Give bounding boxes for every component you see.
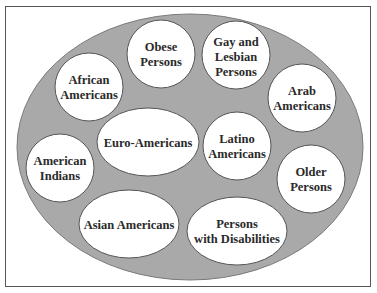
group-african-americans: African Americans [55,53,123,121]
group-euro-americans: Euro-Americans [97,108,199,176]
diversity-diagram: Obese Persons Gay and Lesbian Persons Af… [0,0,377,293]
group-label-line: Indians [40,169,80,183]
group-label-line: Americans [208,147,266,161]
group-american-indians: American Indians [26,134,94,202]
group-older-persons: Older Persons [277,145,345,213]
group-persons-with-disabilities: Persons with Disabilities [187,197,287,265]
group-label-line: Asian Americans [84,218,175,232]
group-label-line: Obese [145,40,178,54]
group-latino-americans: Latino Americans [203,112,271,180]
group-asian-americans: Asian Americans [79,190,179,258]
group-label-line: American [34,154,87,168]
group-label-line: Euro-Americans [104,136,193,150]
group-label-line: Persons [216,217,258,231]
group-label-line: Older [295,165,327,179]
group-label-line: with Disabilities [194,232,280,246]
group-arab-americans: Arab Americans [268,64,336,132]
group-label-line: Persons [215,65,257,79]
group-label-line: Latino [219,132,254,146]
group-label-line: Lesbian [215,50,257,64]
group-label-line: Arab [288,84,316,98]
group-label-line: Persons [290,180,332,194]
group-label-line: Americans [60,88,118,102]
group-gay-lesbian-persons: Gay and Lesbian Persons [202,21,270,89]
group-label-line: African [69,73,110,87]
group-label-line: Americans [273,99,331,113]
group-obese-persons: Obese Persons [127,20,195,88]
group-label-line: Gay and [213,35,259,49]
group-label-line: Persons [140,55,182,69]
